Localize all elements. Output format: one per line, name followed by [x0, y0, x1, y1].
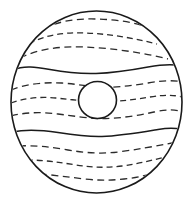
illustration-canvas: Jupiter: [0, 0, 193, 206]
jupiter-line-drawing: [0, 0, 193, 206]
great-red-spot: [79, 82, 117, 119]
